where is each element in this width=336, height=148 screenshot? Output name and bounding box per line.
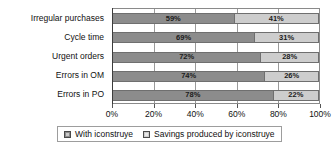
y-axis-line xyxy=(112,8,113,104)
bar-row: 78%22% xyxy=(113,90,319,101)
legend-label: Savings produced by iconstruye xyxy=(154,129,275,139)
x-axis-tick xyxy=(237,104,238,108)
legend-item[interactable]: Savings produced by iconstruye xyxy=(143,129,275,139)
bar-value-label: 41% xyxy=(269,15,284,23)
plot-area: 59%41%69%31%72%28%74%26%78%22% xyxy=(112,8,320,104)
legend-swatch-savings-icon xyxy=(143,131,150,138)
bar-segment: 22% xyxy=(274,90,319,101)
bar-value-label: 28% xyxy=(282,53,297,61)
bar-value-label: 31% xyxy=(279,34,294,42)
x-axis-tick-label: 60% xyxy=(228,109,245,119)
bar-value-label: 69% xyxy=(176,34,191,42)
bar-segment: 78% xyxy=(113,90,274,101)
bar-value-label: 72% xyxy=(179,53,194,61)
bar-segment: 41% xyxy=(235,13,319,24)
bar-segment: 28% xyxy=(261,52,319,63)
bar-value-label: 22% xyxy=(288,91,303,99)
legend-swatch-with-iconstruye-icon xyxy=(64,131,71,138)
bar-value-label: 26% xyxy=(284,72,299,80)
bar-row: 59%41% xyxy=(113,13,319,24)
bar-row: 69%31% xyxy=(113,32,319,43)
x-axis-tick-label: 80% xyxy=(270,109,287,119)
chart-legend: With iconstruyeSavings produced by icons… xyxy=(57,126,282,142)
bar-segment: 69% xyxy=(113,32,255,43)
bar-segment: 74% xyxy=(113,71,265,82)
category-label: Errors in PO xyxy=(0,89,104,99)
category-label: Errors in OM xyxy=(0,70,104,80)
x-axis-tick xyxy=(154,104,155,108)
x-axis-tick xyxy=(278,104,279,108)
x-axis-tick xyxy=(112,104,113,108)
x-axis-labels: 0%20%40%60%80%100% xyxy=(0,109,336,121)
category-label: Cycle time xyxy=(0,32,104,42)
bar-segment: 59% xyxy=(113,13,235,24)
bar-segment: 72% xyxy=(113,52,261,63)
category-axis-labels: Irregular purchasesCycle timeUrgent orde… xyxy=(0,8,108,104)
bar-value-label: 59% xyxy=(166,15,181,23)
bar-value-label: 78% xyxy=(185,91,200,99)
bar-segment: 31% xyxy=(255,32,319,43)
category-label: Irregular purchases xyxy=(0,13,104,23)
bar-segment: 26% xyxy=(265,71,319,82)
x-axis-tick-label: 20% xyxy=(145,109,162,119)
legend-item[interactable]: With iconstruye xyxy=(64,129,133,139)
bar-value-label: 74% xyxy=(181,72,196,80)
x-axis-tick-label: 0% xyxy=(106,109,118,119)
stacked-bar-chart: Irregular purchasesCycle timeUrgent orde… xyxy=(0,0,336,148)
category-label: Urgent orders xyxy=(0,51,104,61)
x-axis-tick xyxy=(195,104,196,108)
x-axis-tick-label: 100% xyxy=(309,109,331,119)
bar-row: 72%28% xyxy=(113,52,319,63)
bar-row: 74%26% xyxy=(113,71,319,82)
x-axis-tick-label: 40% xyxy=(187,109,204,119)
x-axis-tick xyxy=(320,104,321,108)
legend-label: With iconstruye xyxy=(75,129,133,139)
